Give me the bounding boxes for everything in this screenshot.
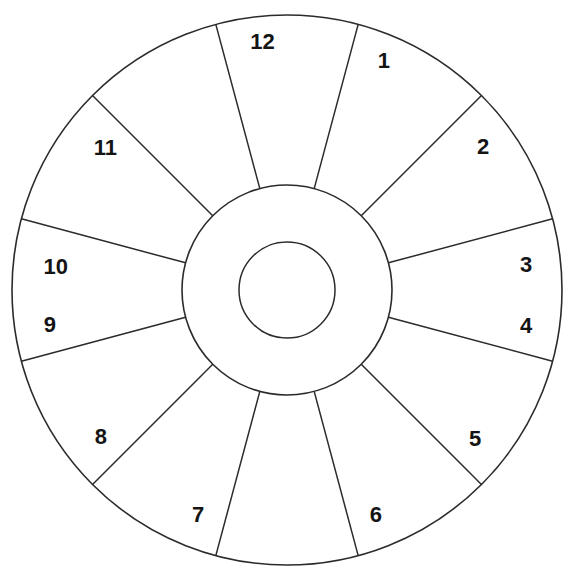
sector-label-3: 3 [520,252,532,277]
sector-label-10: 10 [44,254,68,279]
sector-label-7: 7 [192,502,204,527]
sector-label-8: 8 [95,424,107,449]
sector-label-6: 6 [370,502,382,527]
sector-wheel-diagram: 123456789101112 [0,0,572,581]
diagram-canvas: 123456789101112 [0,0,572,581]
sector-label-1: 1 [378,48,390,73]
sector-label-9: 9 [44,312,56,337]
sector-label-12: 12 [250,29,274,54]
sector-label-11: 11 [94,135,117,160]
sector-label-4: 4 [520,313,533,338]
sector-label-2: 2 [477,134,489,159]
sector-label-5: 5 [469,426,481,451]
core-circle [239,242,335,338]
